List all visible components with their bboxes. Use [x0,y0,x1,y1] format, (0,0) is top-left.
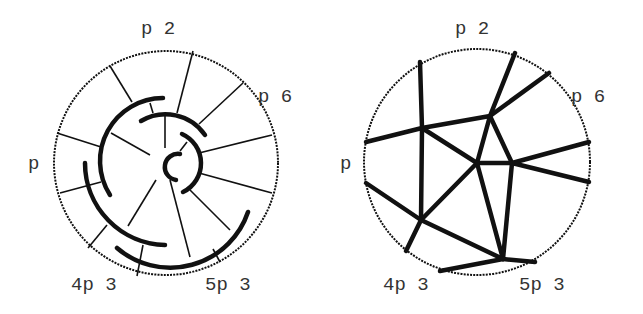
graph-edges [366,53,589,271]
thick-arcs-left [85,98,248,268]
label-p2-right: p 2 [455,20,489,39]
label-4p3-right: 4p 3 [383,276,429,295]
label-p2-left: p 2 [141,20,175,39]
label-p-left: p [28,155,39,174]
inner-arc [165,154,180,180]
arc-5 [85,163,165,245]
left-diagram [54,51,278,276]
arc-3 [141,114,205,135]
diagram-canvas [0,0,643,314]
right-diagram [364,49,590,275]
label-p6-right: p 6 [571,88,605,107]
label-4p3-left: 4p 3 [71,276,117,295]
label-5p3-right: 5p 3 [519,276,565,295]
label-p-right: p [340,155,351,174]
label-p6-left: p 6 [258,88,292,107]
arc-4 [182,134,201,192]
label-5p3-left: 5p 3 [205,276,251,295]
figure: p 2 p 6 p 4p 3 5p 3 p 2 p 6 p 4p 3 5p 3 [0,0,643,314]
